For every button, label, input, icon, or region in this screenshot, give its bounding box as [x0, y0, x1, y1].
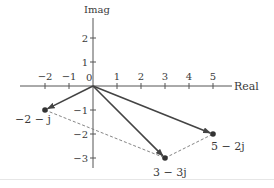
x-tick-label: 2 [138, 71, 144, 82]
x-tick-label: −1 [62, 71, 77, 82]
complex-point [42, 107, 48, 113]
complex-point [162, 155, 168, 161]
real-axis-label: Real [234, 80, 259, 93]
x-tick-label: 1 [114, 71, 120, 82]
complex-point [210, 131, 216, 137]
y-tick-label: 1 [82, 57, 88, 68]
dashed-segment [45, 110, 165, 158]
dashed-segments [45, 110, 213, 158]
point-label: 5 − 2j [211, 140, 245, 153]
y-tick-label: 2 [82, 33, 88, 44]
vectors [48, 86, 211, 156]
point-label: 3 − 3j [153, 166, 187, 179]
y-tick-label: −2 [73, 129, 88, 140]
origin-label: 0 [86, 72, 92, 83]
vector-arrow [93, 86, 210, 133]
vector-arrow [93, 86, 163, 156]
complex-plane-diagram: RealImag0−2−11234521−1−2−3 −2 − j3 − 3j5… [0, 0, 274, 188]
bottom-divider [0, 179, 274, 180]
y-tick-label: −1 [73, 105, 88, 116]
x-tick-label: −2 [38, 71, 53, 82]
imag-axis-label: Imag [84, 4, 110, 15]
y-tick-label: −3 [73, 153, 88, 164]
points [42, 107, 216, 161]
x-tick-label: 4 [186, 71, 192, 82]
x-tick-label: 5 [210, 71, 216, 82]
point-label: −2 − j [15, 113, 51, 126]
dashed-segment [165, 134, 213, 158]
x-tick-label: 3 [162, 71, 168, 82]
